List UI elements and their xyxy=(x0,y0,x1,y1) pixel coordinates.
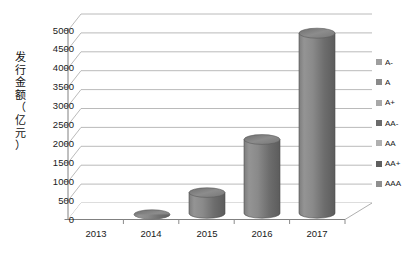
legend-item[interactable]: AA+ xyxy=(376,153,415,173)
legend-item[interactable]: AA xyxy=(376,133,415,153)
legend-swatch-icon xyxy=(376,140,382,146)
legend-item[interactable]: A- xyxy=(376,52,415,72)
legend-item-label: A+ xyxy=(385,98,395,107)
legend-item[interactable]: A xyxy=(376,72,415,92)
x-tick-label: 2013 xyxy=(73,229,119,239)
legend-swatch-icon xyxy=(376,79,382,85)
legend-swatch-icon xyxy=(376,59,382,65)
legend-swatch-icon xyxy=(376,161,382,167)
x-tick-labels: 2013 2014 2015 2016 2017 xyxy=(0,0,415,255)
legend-item-label: A- xyxy=(385,58,393,67)
legend-item-label: AA+ xyxy=(385,159,400,168)
legend-item[interactable]: AA- xyxy=(376,113,415,133)
x-tick-label: 2015 xyxy=(184,229,230,239)
legend-item[interactable]: AAA xyxy=(376,174,415,194)
legend-item-label: AA- xyxy=(385,119,398,128)
legend-swatch-icon xyxy=(376,181,382,187)
legend-swatch-icon xyxy=(376,100,382,106)
x-tick-label: 2014 xyxy=(128,229,174,239)
legend-item-label: A xyxy=(385,78,390,87)
legend-item-label: AA xyxy=(385,139,396,148)
legend-swatch-icon xyxy=(376,120,382,126)
chart-legend: A- A A+ AA- AA AA+ AAA xyxy=(376,52,415,194)
legend-item[interactable]: A+ xyxy=(376,93,415,113)
x-tick-label: 2017 xyxy=(294,229,340,239)
chart-container: 发 行 金 额 （ 亿 元 ） 5000 4500 4000 3500 3000… xyxy=(0,0,415,255)
legend-item-label: AAA xyxy=(385,179,401,188)
x-tick-label: 2016 xyxy=(239,229,285,239)
